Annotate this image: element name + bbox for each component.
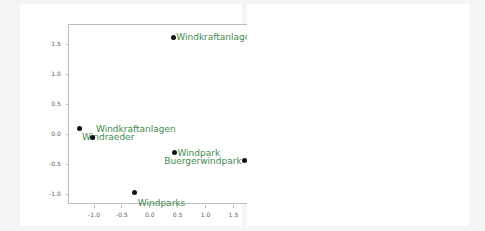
scatter-point <box>132 190 137 195</box>
scatter-point <box>171 35 176 40</box>
scatter-figure: 1.51.00.50.0-0.5-1.0-1.0-0.50.00.51.01.5… <box>0 0 485 231</box>
y-tick-label: -0.5 <box>49 160 61 167</box>
x-tick-label: 1.0 <box>201 211 211 218</box>
y-tick-mark <box>66 194 69 195</box>
y-tick-label: 0.0 <box>51 130 61 137</box>
scatter-point-label: Windkraftanlage <box>176 33 250 42</box>
x-tick-label: -1.0 <box>88 211 100 218</box>
y-tick-label: 1.5 <box>51 40 61 47</box>
right-plot-panel: 1.000.750.500.250.00-0.25-0.50-0.75-1.0-… <box>247 4 469 226</box>
y-tick-mark <box>66 104 69 105</box>
x-tick-mark <box>233 205 234 208</box>
left-plot-panel: 1.51.00.50.0-0.5-1.0-1.0-0.50.00.51.01.5… <box>20 4 242 226</box>
x-tick-mark <box>205 205 206 208</box>
x-tick-mark <box>94 205 95 208</box>
x-tick-mark <box>121 205 122 208</box>
y-tick-mark <box>66 74 69 75</box>
scatter-point-label: Windkraftanlagen <box>96 125 176 134</box>
y-tick-label: -1.0 <box>49 190 61 197</box>
y-tick-mark <box>66 134 69 135</box>
y-tick-mark <box>66 164 69 165</box>
scatter-point <box>77 126 82 131</box>
scatter-point-label: Buergerwindpark <box>164 156 241 165</box>
scatter-point-label: Windparks <box>138 198 185 207</box>
left-plot-axes: 1.51.00.50.0-0.5-1.0-1.0-0.50.00.51.01.5… <box>68 24 252 204</box>
x-tick-label: 1.5 <box>229 211 239 218</box>
y-tick-label: 0.5 <box>51 100 61 107</box>
x-tick-label: 0.5 <box>173 211 183 218</box>
x-tick-label: 0.0 <box>145 211 155 218</box>
x-tick-label: -0.5 <box>116 211 128 218</box>
y-tick-label: 1.0 <box>51 70 61 77</box>
y-tick-mark <box>66 44 69 45</box>
